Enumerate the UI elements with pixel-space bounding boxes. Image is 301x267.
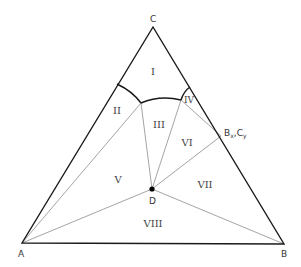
point-label-d: D [149, 196, 156, 206]
arc-region-i-iii [141, 98, 181, 103]
region-label-iii: III [153, 119, 165, 130]
region-label-iv: IV [184, 95, 195, 105]
point-d-marker [149, 186, 154, 191]
vertex-label-c: C [150, 14, 156, 24]
vertex-label-b: B [281, 249, 287, 259]
tie-line-d-b [152, 189, 284, 244]
ternary-diagram: A B C D Bx,Cy I II III IV V VI VII VIII [0, 0, 301, 267]
tie-line-a-arc-junction [22, 103, 141, 243]
tie-line-d-arc-junction-left [141, 103, 152, 189]
region-label-viii: VIII [142, 218, 162, 229]
region-label-vii: VII [196, 179, 212, 190]
arc-region-i-ii [117, 84, 141, 103]
region-label-vi: VI [180, 137, 192, 148]
point-label-bxcy: Bx,Cy [224, 128, 247, 140]
region-label-ii: II [113, 105, 121, 116]
vertex-label-a: A [18, 249, 25, 259]
region-label-i: I [151, 66, 155, 77]
region-label-v: V [113, 174, 122, 185]
tie-line-a-d [22, 189, 152, 243]
tie-line-d-arc-junction-right [152, 100, 181, 189]
